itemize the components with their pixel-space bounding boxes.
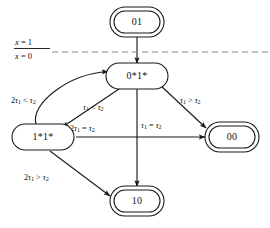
edges-layer [35, 37, 206, 196]
node-00[interactable]: 00 [205, 122, 259, 152]
edge-label-1s1s-to-10: 2τ1 > τ2 [24, 173, 49, 183]
node-00-label: 00 [227, 131, 238, 142]
edge-label-0s1s-to-1s1s: τ1 < τ2 [83, 103, 104, 113]
edge-label-0s1s-to-10: τ1 = τ2 [141, 121, 162, 131]
edge-1s1s-to-0s1s [35, 72, 108, 125]
edge-label-1s1s-to-0s1s: 2τ1 < τ2 [11, 96, 36, 106]
edge-1s1s-to-10 [50, 151, 110, 196]
edge-label-0s1s-to-00: τ1 > τ2 [180, 96, 201, 106]
node-1s1s[interactable]: 1*1* [12, 124, 74, 150]
divider-group: x = 1 x = 0 [14, 37, 270, 61]
node-01-label: 01 [132, 16, 143, 27]
divider-below-label: x = 0 [14, 51, 32, 61]
edge-0s1s-to-00 [160, 85, 206, 128]
node-1s1s-label: 1*1* [32, 131, 53, 142]
node-01[interactable]: 01 [110, 7, 164, 37]
edge-label-1s1s-to-00: 2τ1 = τ2 [70, 124, 95, 134]
node-0s1s[interactable]: 0*1* [106, 63, 168, 89]
state-diagram-canvas: x = 1 x = 0 2τ1 < τ2 τ1 < τ2 τ1 > τ2 [0, 0, 270, 228]
divider-above-label: x = 1 [14, 37, 32, 47]
node-0s1s-label: 0*1* [126, 70, 147, 81]
node-10[interactable]: 10 [110, 186, 164, 216]
nodes-layer: 01 0*1* 1*1* 00 10 [12, 7, 259, 216]
state-diagram: x = 1 x = 0 2τ1 < τ2 τ1 < τ2 τ1 > τ2 [0, 0, 270, 228]
node-10-label: 10 [132, 195, 143, 206]
